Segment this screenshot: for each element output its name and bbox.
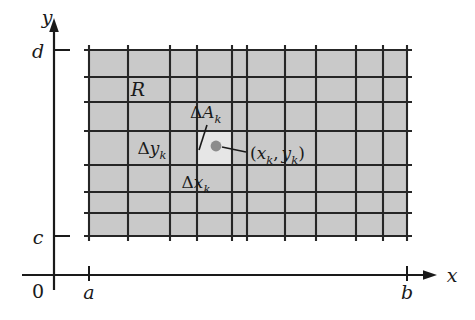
area-element-subscript: k <box>215 112 222 126</box>
x-tick-label-a: a <box>83 281 94 303</box>
area-element-base: A <box>200 102 214 122</box>
delta-x-subscript: k <box>203 182 210 196</box>
y-tick-label-c: c <box>33 226 44 248</box>
x-tick-label-b: b <box>401 281 413 303</box>
y-axis-label: y <box>41 6 53 28</box>
delta-y-base: y <box>149 138 160 158</box>
sample-point-y-subscript: k <box>291 153 298 167</box>
sample-point-open-paren: ( <box>250 143 257 163</box>
delta-x-delta: Δ <box>182 172 194 192</box>
sample-point-y-base: y <box>281 143 292 163</box>
delta-y-delta: Δ <box>138 138 150 158</box>
origin-label: 0 <box>32 280 44 302</box>
sample-point-x-subscript: k <box>266 153 273 167</box>
sample-point-close-paren: ) <box>298 143 305 163</box>
x-axis-arrowhead <box>423 270 437 280</box>
area-element-delta: Δ <box>190 102 202 122</box>
x-axis-label: x <box>447 264 458 286</box>
sample-point-comma: , <box>273 143 278 163</box>
riemann-partition-figure: y x d c 0 a b R ΔAk Δyk Δxk (xk <box>0 0 475 320</box>
delta-y-subscript: k <box>159 148 166 162</box>
sample-point-dot <box>211 141 222 152</box>
y-tick-label-d: d <box>32 40 44 62</box>
delta-x-base: x <box>194 172 204 192</box>
diagram-canvas: y x d c 0 a b R ΔAk Δyk Δxk (xk <box>0 0 475 320</box>
sample-point-x-base: x <box>257 143 267 163</box>
region-label: R <box>130 78 145 100</box>
